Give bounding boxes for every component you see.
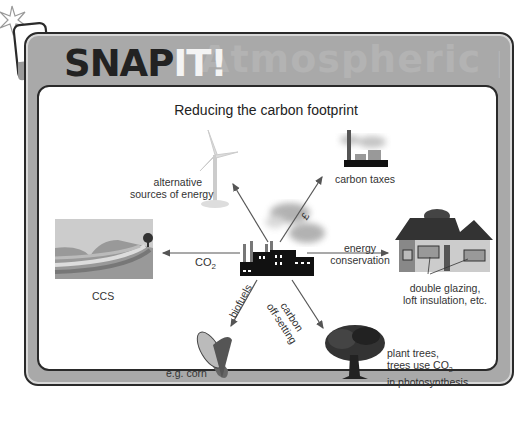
label-line: conservation bbox=[330, 254, 390, 266]
caption-house: double glazing, loft insulation, etc. bbox=[395, 282, 495, 306]
caption-line: double glazing, bbox=[395, 282, 495, 294]
house-icon bbox=[395, 209, 493, 274]
caption-line: loft insulation, etc. bbox=[395, 294, 495, 306]
label-carbon-taxes: carbon taxes bbox=[335, 173, 395, 185]
caption-text: trees use CO bbox=[387, 359, 449, 371]
subscript: 2 bbox=[449, 366, 453, 373]
label-co2: CO2 bbox=[195, 256, 216, 273]
caption-ccs: CCS bbox=[92, 290, 114, 302]
smoke-icon bbox=[265, 203, 325, 243]
label-line: alternative bbox=[130, 176, 202, 188]
power-station-icon bbox=[340, 130, 388, 167]
caption-tree: plant trees, trees use CO2 in photosynth… bbox=[387, 347, 468, 388]
caption-line: trees use CO2 bbox=[387, 359, 468, 376]
label-energy-conservation: energy conservation bbox=[330, 242, 390, 266]
arrow-alternative-energy bbox=[233, 184, 268, 242]
label-alternative-energy: alternative sources of energy bbox=[130, 176, 202, 200]
caption-line: in photosynthesis bbox=[387, 376, 468, 388]
caption-corn: e.g. corn bbox=[166, 367, 207, 379]
factory-icon bbox=[240, 241, 314, 276]
tree-icon bbox=[325, 325, 385, 379]
co-text: CO bbox=[195, 256, 212, 268]
subscript: 2 bbox=[212, 262, 216, 271]
label-line: sources of energy bbox=[130, 188, 202, 200]
caption-line: plant trees, bbox=[387, 347, 468, 359]
ccs-geology-icon bbox=[55, 219, 153, 279]
label-line: energy bbox=[330, 242, 390, 254]
